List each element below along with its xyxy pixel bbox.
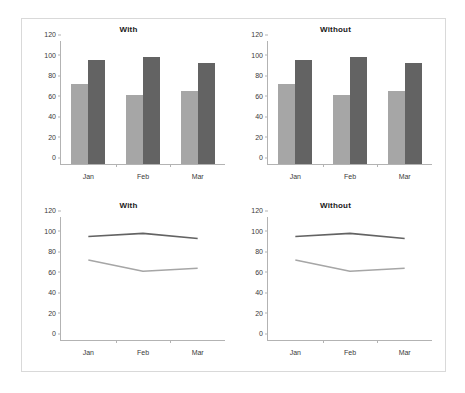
line-plot-svg <box>61 217 225 340</box>
plot-area: JanFebMar 020406080100120 <box>60 41 225 165</box>
bar <box>181 91 198 164</box>
x-axis-label: Jan <box>268 340 323 364</box>
x-axis-label: Feb <box>116 340 171 364</box>
x-axis-tick <box>323 164 324 167</box>
x-axis-label: Jan <box>268 164 323 188</box>
bar <box>350 57 367 164</box>
line-chart-without: Without JanFebMar 020406080100120 <box>233 201 438 367</box>
bar <box>333 95 350 164</box>
plot-area: JanFebMar 020406080100120 <box>60 217 225 341</box>
x-axis-tick <box>170 340 171 343</box>
line-plot-svg <box>268 217 432 340</box>
y-axis-tick: 0 <box>52 154 61 161</box>
x-axis-label: Feb <box>323 164 378 188</box>
bar <box>388 91 405 164</box>
bar-chart-without: Without JanFebMar 020406080100120 <box>233 25 438 191</box>
x-axis-tick <box>116 164 117 167</box>
y-axis-tick: 100 <box>44 51 61 58</box>
y-axis-tick: 40 <box>48 289 61 296</box>
x-axis-tick <box>116 340 117 343</box>
y-axis-tick: 80 <box>48 72 61 79</box>
line-series-path <box>88 260 197 271</box>
x-axis-tick <box>377 164 378 167</box>
line-series <box>61 217 225 340</box>
bar <box>295 60 312 164</box>
line-chart-with: With JanFebMar 020406080100120 <box>26 201 231 367</box>
x-axis-tick <box>323 340 324 343</box>
bar <box>143 57 160 164</box>
line-series-path <box>295 260 404 271</box>
bar-group <box>323 41 378 164</box>
line-series-path <box>88 233 197 238</box>
y-axis-tick: 20 <box>255 133 268 140</box>
bar <box>126 95 143 164</box>
y-axis-tick: 120 <box>251 207 268 214</box>
line-series-path <box>295 233 404 238</box>
y-axis-tick: 60 <box>48 268 61 275</box>
x-axis-labels: JanFebMar <box>268 164 432 188</box>
y-axis-tick: 0 <box>52 330 61 337</box>
plot-area: JanFebMar 020406080100120 <box>267 217 432 341</box>
bar <box>405 63 422 164</box>
x-axis-tick <box>377 340 378 343</box>
y-axis-tick: 80 <box>255 248 268 255</box>
y-axis-tick: 0 <box>259 154 268 161</box>
y-axis-tick: 80 <box>255 72 268 79</box>
x-axis-label: Feb <box>323 340 378 364</box>
y-axis-tick: 0 <box>259 330 268 337</box>
bar-groups <box>268 41 432 164</box>
y-axis-tick: 20 <box>48 309 61 316</box>
y-axis-tick: 40 <box>255 113 268 120</box>
x-axis-label: Feb <box>116 164 171 188</box>
y-axis-tick: 80 <box>48 248 61 255</box>
bar-group <box>377 41 432 164</box>
bar-group <box>170 41 225 164</box>
x-axis-labels: JanFebMar <box>61 164 225 188</box>
x-axis-label: Jan <box>61 164 116 188</box>
y-axis-tick: 120 <box>44 31 61 38</box>
y-axis-tick: 60 <box>255 268 268 275</box>
x-axis-tick <box>170 164 171 167</box>
y-axis-tick: 120 <box>251 31 268 38</box>
y-axis-tick: 100 <box>251 51 268 58</box>
bar-chart-with: With JanFebMar 020406080100120 <box>26 25 231 191</box>
bar-groups <box>61 41 225 164</box>
bar-group <box>61 41 116 164</box>
bar-group <box>116 41 171 164</box>
x-axis-label: Mar <box>170 340 225 364</box>
x-axis-label: Mar <box>377 164 432 188</box>
y-axis-tick: 100 <box>251 227 268 234</box>
y-axis-tick: 60 <box>255 92 268 99</box>
bar <box>71 84 88 164</box>
x-axis-label: Jan <box>61 340 116 364</box>
bar <box>88 60 105 164</box>
bar <box>198 63 215 164</box>
bar <box>278 84 295 164</box>
y-axis-tick: 20 <box>48 133 61 140</box>
y-axis-tick: 40 <box>48 113 61 120</box>
x-axis-label: Mar <box>170 164 225 188</box>
bar-group <box>268 41 323 164</box>
y-axis-tick: 100 <box>44 227 61 234</box>
figure-panel: With JanFebMar 020406080100120 Without J… <box>21 18 446 372</box>
plot-area: JanFebMar 020406080100120 <box>267 41 432 165</box>
x-axis-labels: JanFebMar <box>61 340 225 364</box>
y-axis-tick: 60 <box>48 92 61 99</box>
y-axis-tick: 40 <box>255 289 268 296</box>
y-axis-tick: 20 <box>255 309 268 316</box>
y-axis-tick: 120 <box>44 207 61 214</box>
x-axis-label: Mar <box>377 340 432 364</box>
x-axis-labels: JanFebMar <box>268 340 432 364</box>
line-series <box>268 217 432 340</box>
